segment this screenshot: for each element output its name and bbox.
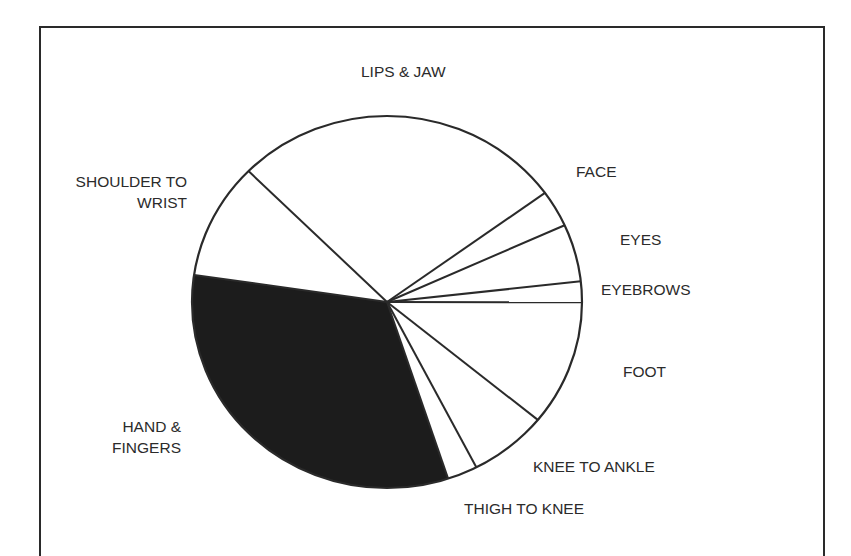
label-hand-fingers-line2: FINGERS — [60, 437, 181, 458]
label-shoulder-to-wrist-line2: WRIST — [40, 192, 187, 213]
label-lips-jaw: LIPS & JAW — [361, 61, 446, 82]
label-hand-fingers-line1: HAND & — [60, 416, 181, 437]
label-face: FACE — [576, 161, 616, 182]
label-shoulder-to-wrist-line1: SHOULDER TO — [40, 171, 187, 192]
label-knee-to-ankle: KNEE TO ANKLE — [533, 456, 655, 477]
label-shoulder-to-wrist: SHOULDER TO WRIST — [40, 171, 187, 213]
label-thigh-to-knee: THIGH TO KNEE — [464, 498, 584, 519]
label-eyes: EYES — [620, 229, 661, 250]
label-foot: FOOT — [623, 361, 666, 382]
label-hand-fingers: HAND & FINGERS — [60, 416, 181, 458]
label-eyebrows: EYEBROWS — [601, 279, 691, 300]
